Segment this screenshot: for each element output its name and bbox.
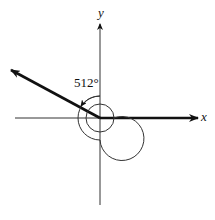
angle-label: 512° (74, 76, 99, 89)
y-axis-label: y (98, 6, 104, 19)
diagram-canvas (0, 0, 215, 220)
rotation-arc-outer (78, 96, 144, 161)
angle-diagram: y x 512° (0, 0, 215, 220)
x-axis-label: x (201, 110, 207, 123)
